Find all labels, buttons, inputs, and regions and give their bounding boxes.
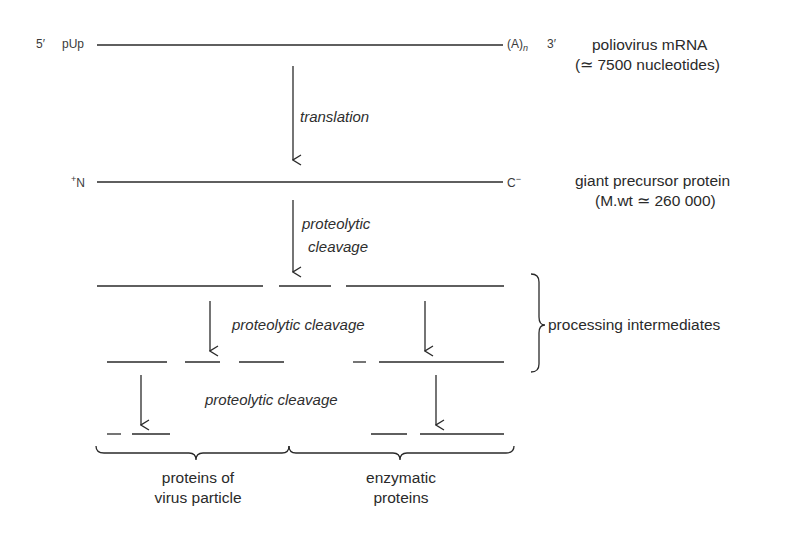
n-terminus-text: N [76,176,85,190]
mrna-title: poliovirus mRNA [592,37,707,53]
intermediates-brace [531,274,545,372]
precursor-weight: (M.wt ≃ 260 000) [595,193,716,209]
c-terminus-label: C− [507,175,521,189]
enzymatic-proteins-label-1: enzymatic [341,470,461,486]
enzymatic-proteins-brace [289,446,514,460]
cleavage-label-2: proteolytic cleavage [232,317,365,332]
polya-tail-label: (A)n [507,38,528,53]
enzymatic-proteins-label-2: proteins [341,490,461,506]
virus-proteins-label-1: proteins of [138,470,258,486]
five-prime-label: 5′ [36,38,45,50]
c-terminus-text: C [507,176,516,190]
c-terminus-charge: − [516,174,521,184]
mrna-length: (≃ 7500 nucleotides) [575,57,720,73]
polya-text: (A) [507,37,523,51]
processing-intermediates-label: processing intermediates [548,317,720,333]
three-prime-label: 3′ [547,38,556,50]
pup-cap-label: pUp [62,38,84,50]
polya-subscript: n [523,43,528,53]
virus-proteins-label-2: virus particle [138,490,258,506]
cleavage-label-1a: proteolytic [302,216,370,231]
cleavage-label-1b: cleavage [308,239,368,254]
virus-proteins-brace [96,446,289,460]
n-terminus-label: +N [71,175,85,189]
precursor-title: giant precursor protein [575,173,730,189]
cleavage-label-3: proteolytic cleavage [205,392,338,407]
diagram-canvas [0,0,809,538]
translation-label: translation [300,109,369,124]
